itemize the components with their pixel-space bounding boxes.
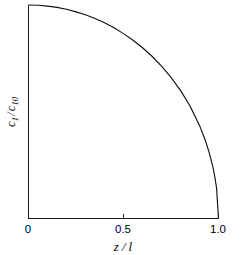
chart-plot-area: 0 0.5 1.0 z/l c1/c10 bbox=[0, 0, 242, 255]
concentration-profile-curve bbox=[29, 5, 219, 219]
x-tick-label-0-5: 0.5 bbox=[115, 223, 131, 235]
x-axis-title-var: z bbox=[113, 239, 119, 254]
x-axis-title-separator: / bbox=[121, 239, 127, 254]
x-axis-title: z/l bbox=[113, 239, 133, 254]
x-tick-label-0: 0 bbox=[25, 223, 31, 235]
x-tick-label-1-0: 1.0 bbox=[210, 223, 226, 235]
y-axis-title-numerator-sub: 1 bbox=[10, 117, 20, 121]
x-axis-title-denominator: l bbox=[129, 239, 133, 254]
y-axis-title-denominator-sub: 10 bbox=[10, 96, 20, 105]
chart-figure: 0 0.5 1.0 z/l c1/c10 bbox=[0, 0, 242, 255]
y-axis-title: c1/c10 bbox=[3, 96, 20, 127]
